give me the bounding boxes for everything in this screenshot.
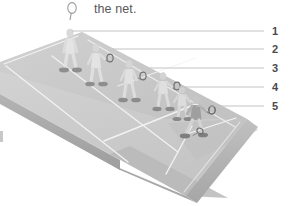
court-scene: [0, 0, 291, 206]
callout-number-5: 5: [272, 100, 286, 112]
callout-number-3: 3: [272, 62, 286, 74]
callout-number-2: 2: [272, 43, 286, 55]
callout-number-1: 1: [272, 25, 286, 37]
edge-artifact-mark: [0, 131, 3, 142]
callout-number-4: 4: [272, 81, 286, 93]
illustration-figure: the net.: [0, 0, 291, 206]
